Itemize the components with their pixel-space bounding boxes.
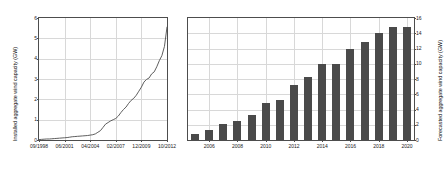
x-tick-mark: [116, 140, 117, 142]
y-tick-label: 4: [416, 107, 419, 112]
x-tick-label: 2014: [317, 143, 328, 149]
y-tick-label: 2: [416, 122, 419, 127]
y-tick-label: 0: [416, 138, 419, 143]
x-tick-mark: [350, 140, 351, 142]
line-chart-series-layer: [39, 18, 167, 140]
panel-forecasted-capacity-bar-chart: Forecasted aggregate wind capacity (GW) …: [178, 0, 448, 174]
line-series-installed-capacity: [39, 27, 167, 139]
x-tick-mark: [167, 140, 168, 142]
y-tick-label: 4: [34, 56, 37, 61]
bar-2005: [191, 134, 199, 140]
x-tick-label: 2016: [345, 143, 356, 149]
x-tick-label: 04/2004: [81, 143, 99, 149]
y-tick-label: 12: [416, 46, 422, 51]
bar-2011: [276, 100, 284, 140]
bar-2017: [361, 42, 369, 140]
y-tick-label: 6: [416, 92, 419, 97]
bar-2010: [262, 103, 270, 140]
bar-chart-y-axis-title: Forecasted aggregate wind capacity (GW): [437, 40, 443, 141]
bar-2012: [290, 85, 298, 140]
bar-2006: [205, 130, 213, 140]
x-tick-mark: [237, 140, 238, 142]
y-tick-label: 10: [416, 61, 422, 66]
x-tick-label: 2010: [260, 143, 271, 149]
bar-2009: [248, 115, 256, 140]
bar-chart-plot-area: 0246810121416 20062008201020122014201620…: [187, 17, 415, 141]
x-tick-label: 12/2009: [132, 143, 150, 149]
x-tick-mark: [266, 140, 267, 142]
line-chart-plot-area: 0123456 09/199806/200104/200402/200712/2…: [38, 17, 168, 141]
y-tick-label: 5: [34, 36, 37, 41]
x-tick-label: 06/2001: [56, 143, 74, 149]
x-tick-label: 2008: [232, 143, 243, 149]
x-tick-mark: [209, 140, 210, 142]
y-tick-label: 8: [416, 77, 419, 82]
line-chart-y-axis-title: Installed aggregate wind capacity (GW): [12, 47, 18, 141]
figure-two-panel-wind-capacity: Installed aggregate wind capacity (GW) 0…: [0, 0, 448, 174]
x-tick-label: 2020: [401, 143, 412, 149]
x-tick-mark: [90, 140, 91, 142]
y-tick-label: 16: [416, 16, 422, 21]
x-tick-label: 02/2007: [107, 143, 125, 149]
bar-2016: [346, 49, 354, 140]
x-tick-mark: [65, 140, 66, 142]
y-tick-label: 14: [416, 31, 422, 36]
x-tick-mark: [294, 140, 295, 142]
bar-2008: [233, 121, 241, 140]
x-tick-label: 2006: [204, 143, 215, 149]
y-tick-label: 0: [34, 138, 37, 143]
x-tick-mark: [39, 140, 40, 142]
bar-2007: [219, 124, 227, 140]
bar-2015: [332, 64, 340, 140]
y-tick-label: 6: [34, 16, 37, 21]
x-tick-mark: [141, 140, 142, 142]
bar-2020: [403, 27, 411, 140]
gridline-vertical: [209, 18, 210, 140]
x-tick-mark: [322, 140, 323, 142]
x-tick-mark: [407, 140, 408, 142]
x-tick-mark: [379, 140, 380, 142]
x-tick-label: 10/2012: [158, 143, 176, 149]
bar-2014: [318, 64, 326, 140]
y-tick-label: 1: [34, 117, 37, 122]
bar-2018: [375, 33, 383, 141]
x-tick-label: 2012: [288, 143, 299, 149]
bar-2019: [389, 27, 397, 140]
panel-installed-capacity-line-chart: Installed aggregate wind capacity (GW) 0…: [0, 0, 180, 174]
bar-2013: [304, 77, 312, 140]
x-tick-label: 09/1998: [30, 143, 48, 149]
x-tick-label: 2018: [373, 143, 384, 149]
y-tick-label: 3: [34, 77, 37, 82]
y-tick-label: 2: [34, 97, 37, 102]
